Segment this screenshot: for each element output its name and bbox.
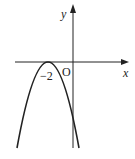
parabola-graph: y x O −2 [0,0,135,159]
y-axis-arrow-icon [70,4,76,13]
x-axis-arrow-icon [121,59,129,65]
origin-label: O [62,65,71,79]
x-axis-label: x [122,66,129,80]
vertex-x-label: −2 [40,69,53,83]
y-axis-label: y [60,7,67,21]
